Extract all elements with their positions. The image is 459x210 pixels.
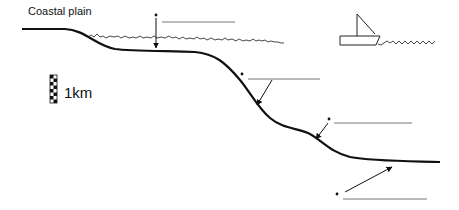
scale-label: 1km [64, 84, 92, 101]
arrow-icon [316, 123, 328, 139]
blank-label-1 [155, 14, 235, 48]
blank-label-4 [336, 167, 427, 199]
arrow-icon [345, 167, 392, 192]
coastal-plain-label: Coastal plain [28, 5, 92, 17]
diagram-canvas [0, 0, 459, 210]
scale-bar-icon [50, 75, 57, 103]
blank-label-2 [241, 73, 320, 105]
continental-margin-diagram: Coastal plain 1km [0, 0, 459, 210]
bullet-dot [328, 118, 331, 121]
bullet-dot [155, 14, 158, 17]
arrow-icon [257, 80, 272, 105]
sea-surface-right [378, 41, 435, 45]
bullet-dot [241, 73, 244, 76]
boat-icon [340, 14, 380, 45]
sea-surface [88, 34, 284, 43]
bullet-dot [336, 193, 339, 196]
blank-label-3 [316, 118, 412, 139]
